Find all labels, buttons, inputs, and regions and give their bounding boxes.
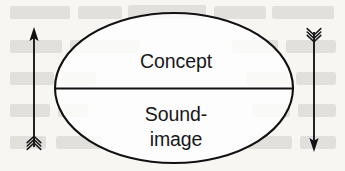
- sound-image-label-line1: Sound-: [145, 103, 207, 125]
- figure-container: Concept Sound- image: [0, 0, 345, 171]
- sound-image-label-line2: image: [150, 128, 203, 150]
- concept-label: Concept: [140, 50, 213, 72]
- sign-model-diagram: Concept Sound- image: [0, 0, 345, 171]
